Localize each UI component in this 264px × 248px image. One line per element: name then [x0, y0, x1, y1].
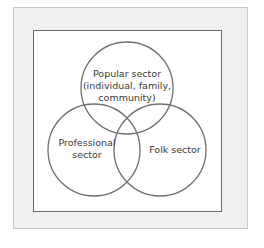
label-line: Popular sector [77, 68, 177, 80]
label-line: (individual, family, [77, 80, 177, 92]
label-line: sector [52, 149, 122, 161]
label-folk-sector: Folk sector [140, 144, 210, 156]
label-line: Professional [52, 137, 122, 149]
label-line: Folk sector [140, 144, 210, 156]
label-popular-sector: Popular sector (individual, family, comm… [77, 68, 177, 104]
label-professional-sector: Professional sector [52, 137, 122, 161]
label-line: community) [77, 92, 177, 104]
venn-diagram [0, 0, 264, 248]
